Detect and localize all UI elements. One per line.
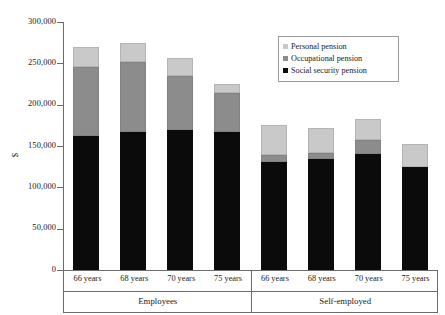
bar-segment <box>120 43 146 62</box>
group-axis-label: Employees <box>65 296 251 306</box>
bar-segment <box>73 47 99 67</box>
y-axis-tick-label: 150,000 <box>0 142 56 150</box>
bar-segment <box>261 162 287 270</box>
bar-stack <box>402 144 428 270</box>
bar-segment <box>308 159 334 270</box>
legend-label-social: Social security pension <box>291 66 367 75</box>
bar-segment <box>355 119 381 140</box>
bar-stack <box>261 125 287 270</box>
group-divider <box>251 270 252 313</box>
legend-swatch-icon-social <box>283 68 288 73</box>
category-axis-label: 68 years <box>296 274 348 283</box>
bar-stack <box>167 58 193 270</box>
legend-swatch-icon-occupational <box>283 56 288 61</box>
bar-segment <box>214 93 240 132</box>
y-axis-tick-label: 250,000 <box>0 59 56 67</box>
category-axis-label: 70 years <box>343 274 395 283</box>
bar-segment <box>355 140 381 154</box>
chart-legend: Personal pension Occupational pension So… <box>278 36 399 82</box>
y-axis-tick-label: 100,000 <box>0 183 56 191</box>
category-axis-label: 66 years <box>61 274 113 283</box>
bar-stack <box>355 119 381 270</box>
bar-segment <box>402 167 428 270</box>
bar-stack <box>308 128 334 270</box>
legend-item-occupational-pension: Occupational pension <box>283 53 394 64</box>
legend-label-occupational: Occupational pension <box>291 54 362 63</box>
category-axis-label: 75 years <box>390 274 442 283</box>
category-axis-label: 68 years <box>108 274 160 283</box>
legend-swatch-icon-personal <box>283 44 288 49</box>
y-axis-tick-label: 0 <box>0 266 56 274</box>
bar-segment <box>402 144 428 166</box>
legend-item-social-security-pension: Social security pension <box>283 65 394 76</box>
legend-label-personal: Personal pension <box>291 42 347 51</box>
bar-segment <box>120 132 146 270</box>
category-axis-label: 66 years <box>249 274 301 283</box>
category-axis-label: 75 years <box>202 274 254 283</box>
bar-stack <box>214 84 240 270</box>
bar-segment <box>167 58 193 76</box>
category-axis-label: 70 years <box>155 274 207 283</box>
legend-item-personal-pension: Personal pension <box>283 41 394 52</box>
bar-segment <box>167 76 193 131</box>
y-axis-title: $ <box>10 153 20 157</box>
bar-segment <box>214 132 240 270</box>
group-axis-label: Self-employed <box>252 296 438 306</box>
bar-segment <box>214 84 240 93</box>
bar-segment <box>261 155 287 162</box>
y-axis-tick-label: 300,000 <box>0 18 56 26</box>
bar-segment <box>167 130 193 270</box>
bar-segment <box>308 128 334 154</box>
y-axis-tick-label: 50,000 <box>0 224 56 232</box>
y-axis-tick-label: 200,000 <box>0 100 56 108</box>
bar-segment <box>120 62 146 132</box>
bar-segment <box>355 154 381 270</box>
bar-segment <box>73 136 99 270</box>
bar-stack <box>120 43 146 270</box>
bar-segment <box>261 125 287 156</box>
bar-segment <box>73 67 99 136</box>
bar-stack <box>73 47 99 270</box>
stacked-bar-chart: $ 050,000100,000150,000200,000250,000300… <box>0 0 445 315</box>
